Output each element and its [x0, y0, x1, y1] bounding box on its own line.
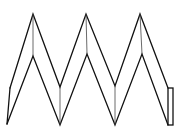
- outer-zigzag-edge: [10, 14, 168, 88]
- fold-line: [86, 14, 87, 54]
- inner-zigzag-edge: [7, 54, 168, 125]
- end-tab: [168, 88, 173, 125]
- zigzag-fold-diagram: [0, 0, 181, 130]
